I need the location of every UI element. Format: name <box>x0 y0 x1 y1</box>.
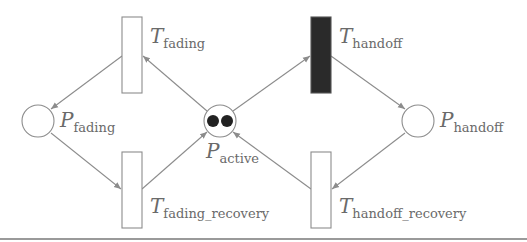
arc-p-handoff-to-t-handoff-recovery <box>332 133 405 189</box>
transition-t-handoff <box>311 17 331 93</box>
bottom-divider <box>0 238 527 240</box>
label-sub: fading_recovery <box>163 206 269 221</box>
label-t-fading: Tfading <box>150 26 205 46</box>
label-sub: fading <box>73 120 115 135</box>
label-main: T <box>150 24 163 48</box>
transition-t-handoff-recovery <box>311 152 331 228</box>
label-t-fading-recovery: Tfading_recovery <box>150 196 269 216</box>
arc-t-handoff-to-p-handoff <box>331 56 405 109</box>
label-main: T <box>339 24 352 48</box>
arc-active-to-t-handoff <box>233 56 310 111</box>
transition-t-fading-recovery <box>122 152 142 228</box>
arc-t-fading-to-p-fading <box>51 56 122 109</box>
label-sub: active <box>219 151 258 166</box>
label-p-fading: Pfading <box>60 110 115 130</box>
label-sub: handoff <box>453 120 503 135</box>
token-2 <box>221 115 233 127</box>
transition-t-fading <box>122 17 142 93</box>
label-main: P <box>440 108 453 132</box>
place-p-fading <box>22 105 54 137</box>
token-1 <box>207 115 219 127</box>
label-t-handoff-recovery: Thandoff_recovery <box>339 196 466 216</box>
label-main: P <box>60 108 73 132</box>
arc-t-fading-recovery-to-active <box>142 132 207 189</box>
label-sub: handoff_recovery <box>352 206 466 221</box>
label-t-handoff: Thandoff <box>339 26 402 46</box>
place-p-handoff <box>402 105 434 137</box>
label-p-active: Pactive <box>206 141 259 161</box>
arc-active-to-t-fading <box>143 56 207 111</box>
label-sub: handoff <box>352 36 402 51</box>
label-main: T <box>150 194 163 218</box>
arc-p-fading-to-t-fading-recovery <box>51 133 121 189</box>
label-main: P <box>206 139 219 163</box>
label-main: T <box>339 194 352 218</box>
label-p-handoff: Phandoff <box>440 110 503 130</box>
label-sub: fading <box>163 36 205 51</box>
